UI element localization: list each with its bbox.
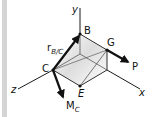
position-vector-label: rB/C <box>47 42 63 56</box>
moment-subscript: C <box>75 106 80 114</box>
point-b-label: B <box>84 25 91 36</box>
moment-label: MC <box>66 100 80 114</box>
point-g-dot <box>105 48 108 51</box>
point-c-dot <box>51 68 54 71</box>
y-axis-label: y <box>71 4 79 15</box>
z-axis-label: z <box>10 84 17 95</box>
point-e-label: E <box>78 88 85 99</box>
moment-main: M <box>66 100 75 111</box>
position-vector-subscript: B/C <box>51 48 63 56</box>
force-p-label: P <box>132 61 138 72</box>
x-axis-label: x <box>138 87 145 98</box>
point-c-label: C <box>42 63 49 74</box>
point-g-label: G <box>107 37 115 48</box>
moment-diagram: y z x B G C E P rB/C MC <box>0 0 155 117</box>
force-vector-p <box>107 50 128 62</box>
x-axis <box>107 70 140 89</box>
point-b-dot <box>78 32 81 35</box>
